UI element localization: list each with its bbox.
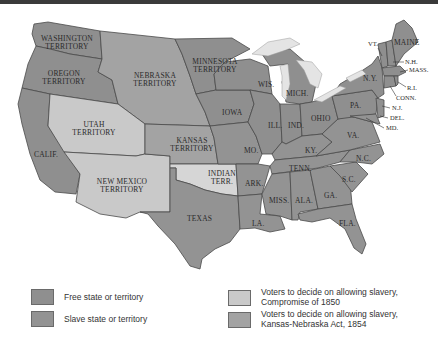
label-nj: N.J.	[392, 104, 403, 111]
label-tenn: TENN.	[289, 164, 312, 173]
label-washington: WASHINGTONTERRITORY	[41, 34, 93, 51]
label-fla: FLA.	[339, 219, 356, 228]
label-ind: IND.	[288, 121, 304, 130]
label-new-mexico: NEW MEXICOTERRITORY	[97, 177, 148, 194]
label-mo: MO.	[244, 146, 259, 155]
label-conn: CONN.	[396, 94, 416, 101]
label-indian-territory: INDIANTERR.	[208, 169, 236, 186]
legend-label-compromise-line2: Compromise of 1850	[261, 298, 398, 308]
legend-label-kn-line2: Kansas-Nebraska Act, 1854	[261, 320, 398, 330]
label-del: DEL.	[390, 114, 405, 121]
region-massachusetts	[382, 66, 406, 76]
legend-label-free: Free state or territory	[64, 293, 143, 303]
label-kansas: KANSASTERRITORY	[170, 136, 214, 153]
leader-ri	[398, 82, 406, 87]
label-md: MD.	[386, 124, 398, 131]
label-iowa: IOWA	[222, 108, 243, 117]
label-ark: ARK.	[245, 179, 264, 188]
label-ny: N.Y.	[363, 74, 377, 83]
label-la: LA.	[252, 219, 264, 228]
region-new-jersey	[376, 98, 384, 118]
label-mass: MASS.	[409, 66, 429, 73]
legend-item-free: Free state or territory	[31, 289, 143, 305]
region-florida	[298, 204, 366, 254]
label-ga: GA.	[324, 191, 337, 200]
label-miss: MISS.	[269, 196, 289, 205]
label-ill: ILL.	[268, 121, 282, 130]
label-nebraska: NEBRASKATERRITORY	[133, 71, 177, 88]
label-wis: WIS.	[258, 80, 274, 89]
us-map-1854: WASHINGTONTERRITORY OREGONTERRITORY NEBR…	[0, 4, 438, 274]
label-vt: VT.	[368, 40, 378, 47]
legend-swatch-slave	[31, 311, 54, 327]
label-ri: R.I.	[407, 84, 417, 91]
label-oregon: OREGONTERRITORY	[42, 69, 86, 86]
label-va: VA.	[347, 131, 359, 140]
legend-item-kansas-nebraska: Voters to decide on allowing slavery, Ka…	[228, 310, 398, 329]
label-ky: KY.	[305, 146, 317, 155]
legend-swatch-compromise-1850	[228, 290, 251, 306]
legend-swatch-free	[31, 289, 54, 305]
label-pa: PA.	[350, 101, 361, 110]
label-nc: N.C.	[356, 154, 371, 163]
label-ala: ALA.	[295, 196, 313, 205]
label-ohio: OHIO	[311, 114, 331, 123]
map-legend: Free state or territory Slave state or t…	[0, 282, 438, 342]
legend-swatch-kansas-nebraska	[228, 312, 251, 328]
legend-item-slave: Slave state or territory	[31, 311, 147, 327]
label-sc: S.C.	[342, 175, 356, 184]
label-calif: CALIF.	[34, 150, 58, 159]
label-minnesota: MINNESOTATERRITORY	[192, 57, 238, 74]
label-texas: TEXAS	[187, 214, 212, 223]
leader-conn	[390, 86, 396, 96]
label-maine: MAINE	[394, 38, 420, 47]
label-mich: MICH.	[286, 89, 308, 98]
label-nh: N.H.	[405, 58, 418, 65]
legend-label-kansas-nebraska: Voters to decide on allowing slavery, Ka…	[261, 310, 398, 329]
legend-label-slave: Slave state or territory	[64, 315, 147, 325]
legend-label-compromise-1850: Voters to decide on allowing slavery, Co…	[261, 288, 398, 307]
legend-item-compromise-1850: Voters to decide on allowing slavery, Co…	[228, 288, 398, 307]
